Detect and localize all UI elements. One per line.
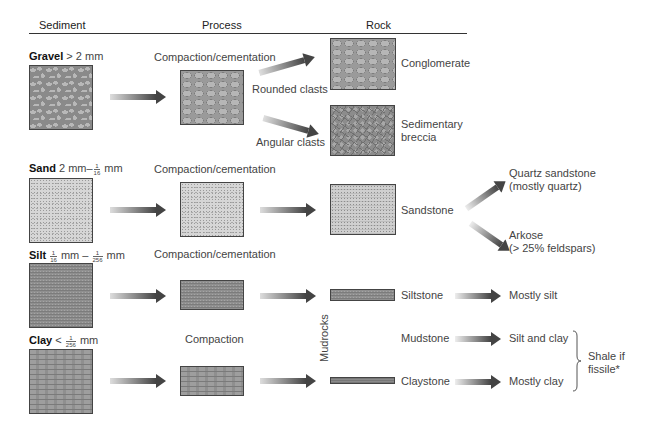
mudrocks-group-label: Mudrocks [318,314,330,362]
siltstone-label: Siltstone [401,289,443,302]
sand-sample [29,178,93,243]
silt-and-clay-label: Silt and clay [509,332,568,345]
arrow-silt-process [110,289,166,303]
conglomerate-sample [330,38,396,90]
arrow-sand-rock [260,203,316,217]
header-rule [29,33,467,34]
siltstone-sample [330,289,395,301]
clay-size-suffix: mm [80,334,98,346]
conglomerate-label: Conglomerate [401,57,470,70]
arkose-label-line2: (> 25% feldspars) [509,242,596,255]
breccia-label-line1: Sedimentary [401,118,463,131]
clay-label: Clay < 1256 mm [29,334,98,348]
silt-compacted-sample [180,280,244,310]
shale-note-line1: Shale if [588,350,625,363]
silt-size-mid: mm – [61,249,89,261]
angular-clasts-label: Angular clasts [256,136,325,149]
clay-process-label: Compaction [185,333,244,346]
header-process: Process [202,19,242,31]
sandstone-sample [330,184,396,235]
clay-frac-den: 256 [66,342,76,348]
silt-label: Silt 116 mm – 1256 mm [29,249,125,263]
silt-sample [29,263,93,328]
arrow-silt-rock [260,289,316,303]
clay-size-prefix: < [55,334,61,346]
sand-fraction: 116 [94,163,101,176]
quartz-sandstone-label-line2: (mostly quartz) [509,180,582,193]
sand-frac-den: 16 [94,170,101,176]
silt-frac1-num: 1 [50,250,57,257]
clay-compacted-sample [180,366,244,396]
mudstone-label: Mudstone [401,332,449,345]
clay-fraction: 1256 [66,335,76,348]
claystone-label: Claystone [401,375,450,388]
clay-frac-num: 1 [66,335,76,342]
breccia-label-line2: breccia [401,131,436,144]
sand-process-label: Compaction/cementation [154,163,276,176]
silt-process-label: Compaction/cementation [154,248,276,261]
rounded-clasts-label: Rounded clasts [252,83,328,96]
gravel-sample [29,65,93,130]
sand-size-suffix: mm [104,162,122,174]
claystone-sample [330,377,395,384]
gravel-name: Gravel [29,50,63,62]
header-sediment: Sediment [39,19,85,31]
arkose-label-line1: Arkose [509,229,543,242]
header-rock: Rock [366,19,391,31]
arrow-clay-process [110,374,166,388]
silt-frac2-num: 1 [93,250,103,257]
mostly-silt-label: Mostly silt [509,289,557,302]
gravel-label: Gravel > 2 mm [29,50,103,63]
silt-name: Silt [29,249,46,261]
silt-fraction-1: 116 [50,250,57,263]
sand-label: Sand 2 mm–116 mm [29,162,123,176]
silt-frac1-den: 16 [50,257,57,263]
silt-fraction-2: 1256 [93,250,103,263]
arrow-siltstone-composition [455,289,501,303]
sand-compacted-sample [180,182,244,237]
silt-frac2-den: 256 [93,257,103,263]
arrow-clay-rock [260,374,316,388]
shale-note-line2: fissile* [588,363,620,376]
shale-brace [572,330,582,396]
gravel-compacted-sample [180,70,244,125]
arrow-arkose [466,218,513,257]
silt-size-suffix: mm [107,249,125,261]
gravel-process-label: Compaction/cementation [154,51,276,64]
mostly-clay-label: Mostly clay [509,375,563,388]
sand-frac-num: 1 [94,163,101,170]
sandstone-label: Sandstone [401,204,454,217]
quartz-sandstone-label-line1: Quartz sandstone [509,167,596,180]
arrow-claystone-composition [455,375,501,389]
sand-name: Sand [29,162,56,174]
sand-size-prefix: 2 mm– [59,162,93,174]
arrow-gravel-process [110,90,166,104]
clay-name: Clay [29,334,52,346]
clay-sample [29,349,93,414]
breccia-sample [330,105,395,156]
arrow-mudstone-composition [455,332,501,346]
arrow-sand-process [110,203,166,217]
arrow-quartz-sandstone [462,176,509,215]
gravel-size: > 2 mm [66,50,103,62]
